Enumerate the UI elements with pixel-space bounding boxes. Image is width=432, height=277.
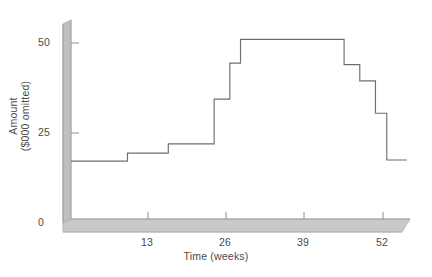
x-axis-slab <box>63 219 410 232</box>
x-tick-label-52: 52 <box>376 236 388 248</box>
x-tick-label-13: 13 <box>141 236 153 248</box>
y-tick-label-50: 50 <box>38 36 50 48</box>
y-tick-marks <box>71 43 79 133</box>
y-axis-title-line1: Amount <box>7 61 19 171</box>
y-tick-label-25: 25 <box>38 126 50 138</box>
x-tick-marks <box>148 212 383 219</box>
x-axis-title: Time (weeks) <box>0 250 432 262</box>
x-tick-label-26: 26 <box>219 236 231 248</box>
y-tick-label-0: 0 <box>38 216 44 228</box>
y-axis-slab <box>63 20 71 223</box>
step-line-amount <box>71 39 407 161</box>
y-axis-title: Amount ($000 omitted) <box>7 61 31 171</box>
x-tick-label-39: 39 <box>297 236 309 248</box>
chart-figure: 0 25 50 13 26 39 52 Amount ($000 omitted… <box>0 0 432 277</box>
chart-canvas <box>0 0 432 277</box>
y-axis-title-line2: ($000 omitted) <box>19 61 31 171</box>
